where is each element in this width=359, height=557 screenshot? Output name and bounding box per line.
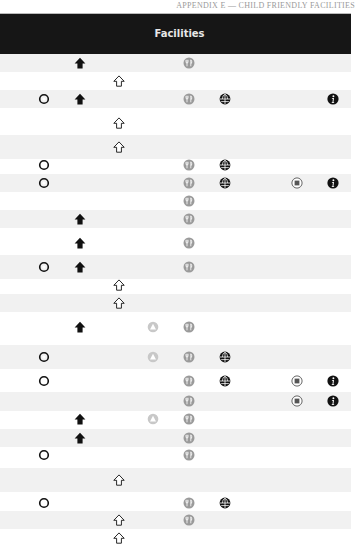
globe-icon: [218, 350, 232, 364]
home-filled-icon: [73, 412, 87, 426]
restaurant-icon: [182, 513, 196, 527]
table-row: [0, 315, 351, 339]
globe-icon: [218, 158, 232, 172]
home-filled-icon: [73, 56, 87, 70]
restaurant-icon: [182, 158, 196, 172]
table-row: [0, 111, 351, 135]
restaurant-icon: [182, 212, 196, 226]
house-outline-icon: [112, 473, 126, 487]
home-filled-icon: [73, 236, 87, 250]
triangle-circle-icon: [146, 350, 160, 364]
home-filled-icon: [73, 260, 87, 274]
restaurant-icon: [182, 350, 196, 364]
table-row: [0, 72, 351, 90]
restaurant-icon: [182, 412, 196, 426]
table-row: [0, 429, 351, 447]
ring-icon: [37, 260, 51, 274]
restaurant-icon: [182, 56, 196, 70]
restaurant-icon: [182, 394, 196, 408]
triangle-circle-icon: [146, 320, 160, 334]
square-circle-icon: [290, 394, 304, 408]
home-filled-icon: [73, 212, 87, 226]
home-filled-icon: [73, 320, 87, 334]
table-row: [0, 511, 351, 529]
table-row: [0, 468, 351, 492]
restaurant-icon: [182, 236, 196, 250]
table-row: [0, 231, 351, 255]
globe-icon: [218, 92, 232, 106]
restaurant-icon: [182, 431, 196, 445]
house-outline-icon: [112, 296, 126, 310]
home-filled-icon: [73, 431, 87, 445]
info-icon: [326, 394, 340, 408]
house-outline-icon: [112, 140, 126, 154]
table-row: [0, 345, 351, 369]
house-outline-icon: [112, 74, 126, 88]
house-outline-icon: [112, 116, 126, 130]
table-row: [0, 370, 351, 392]
table-row: [0, 446, 351, 464]
ring-icon: [37, 176, 51, 190]
house-outline-icon: [112, 513, 126, 527]
table-row: [0, 410, 351, 428]
house-outline-icon: [112, 531, 126, 545]
table-header: Facilities: [0, 13, 351, 54]
info-icon: [326, 374, 340, 388]
ring-icon: [37, 448, 51, 462]
home-filled-icon: [73, 92, 87, 106]
table-row: [0, 392, 351, 411]
table-row: [0, 90, 351, 108]
globe-icon: [218, 374, 232, 388]
house-outline-icon: [112, 278, 126, 292]
restaurant-icon: [182, 374, 196, 388]
restaurant-icon: [182, 496, 196, 510]
table-row: [0, 54, 351, 72]
table-row: [0, 192, 351, 210]
table-row: [0, 529, 351, 547]
restaurant-icon: [182, 176, 196, 190]
table-row: [0, 294, 351, 312]
ring-icon: [37, 350, 51, 364]
triangle-circle-icon: [146, 412, 160, 426]
restaurant-icon: [182, 92, 196, 106]
square-circle-icon: [290, 176, 304, 190]
globe-icon: [218, 176, 232, 190]
table-row: [0, 174, 351, 192]
info-icon: [326, 92, 340, 106]
table-row: [0, 276, 351, 294]
header-title: Facilities: [0, 14, 351, 54]
restaurant-icon: [182, 260, 196, 274]
table-row: [0, 210, 351, 228]
info-icon: [326, 176, 340, 190]
square-circle-icon: [290, 374, 304, 388]
running-head: APPENDIX E — CHILD FRIENDLY FACILITIES: [176, 0, 355, 12]
ring-icon: [37, 374, 51, 388]
restaurant-icon: [182, 320, 196, 334]
restaurant-icon: [182, 194, 196, 208]
ring-icon: [37, 496, 51, 510]
table-row: [0, 156, 351, 174]
ring-icon: [37, 92, 51, 106]
globe-icon: [218, 496, 232, 510]
restaurant-icon: [182, 448, 196, 462]
ring-icon: [37, 158, 51, 172]
